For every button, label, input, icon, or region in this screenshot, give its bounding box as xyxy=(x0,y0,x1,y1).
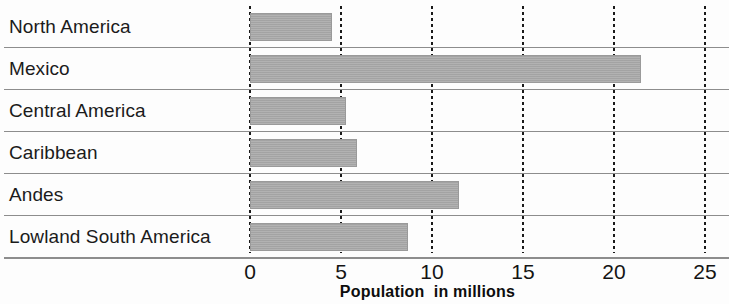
x-tick-label: 0 xyxy=(244,258,256,286)
x-tick-label: 15 xyxy=(511,258,534,286)
category-label: North America xyxy=(9,6,131,48)
category-label: Caribbean xyxy=(9,132,98,174)
bar-chart-figure: North AmericaMexicoCentral AmericaCaribb… xyxy=(0,0,729,304)
chart-row: Andes xyxy=(0,174,729,216)
x-axis-title: Population in millions xyxy=(0,283,729,301)
bar xyxy=(250,139,357,167)
plot-area: North AmericaMexicoCentral AmericaCaribb… xyxy=(0,0,729,304)
chart-row: Lowland South America xyxy=(0,216,729,258)
bar xyxy=(250,181,459,209)
category-label: Lowland South America xyxy=(9,216,211,258)
category-label: Central America xyxy=(9,90,146,132)
chart-row: Mexico xyxy=(0,48,729,90)
x-axis-title-text: Population in millions xyxy=(340,283,515,301)
bar xyxy=(250,55,641,83)
bar xyxy=(250,97,346,125)
x-tick-label: 10 xyxy=(420,258,443,286)
x-tick-label: 5 xyxy=(335,258,347,286)
bar xyxy=(250,223,408,251)
x-axis-tick-labels: 0510152025 xyxy=(0,258,729,286)
category-label: Mexico xyxy=(9,48,70,90)
x-tick-label: 20 xyxy=(602,258,625,286)
chart-row: North America xyxy=(0,6,729,48)
bar xyxy=(250,13,332,41)
chart-row: Central America xyxy=(0,90,729,132)
chart-row: Caribbean xyxy=(0,132,729,174)
chart-rows: North AmericaMexicoCentral AmericaCaribb… xyxy=(0,6,729,258)
x-tick-label: 25 xyxy=(693,258,716,286)
category-label: Andes xyxy=(9,174,63,216)
